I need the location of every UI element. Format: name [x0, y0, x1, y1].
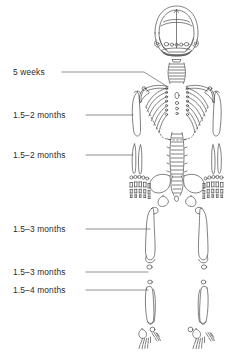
leader-lines — [62, 72, 168, 290]
humerus-group — [132, 91, 221, 136]
right-hand-group — [203, 175, 223, 198]
label-tibia-lower: 1.5–4 months — [13, 286, 66, 294]
right-foot-group — [188, 327, 214, 349]
spine-group — [167, 133, 187, 177]
left-foot-group — [139, 327, 161, 349]
cervical-spine-group — [168, 63, 185, 84]
label-tibia-upper: 1.5–3 months — [13, 268, 66, 276]
right-patella — [201, 265, 206, 269]
skull-group — [155, 6, 199, 62]
thorax-group — [146, 87, 208, 140]
leader-5-weeks — [62, 72, 168, 87]
label-femur: 1.5–3 months — [13, 225, 66, 233]
femur-group — [146, 207, 209, 263]
left-proximal-tibia-epiphysis — [148, 280, 153, 284]
left-hand-group — [130, 175, 150, 198]
shoulder-girdle-group — [139, 85, 214, 103]
label-shoulder-girdle: 1.5–2 months — [13, 111, 66, 119]
patella-group — [147, 265, 207, 284]
ossification-diagram: 5 weeks 1.5–2 months 1.5–2 months 1.5–3 … — [0, 0, 233, 352]
right-proximal-tibia-epiphysis — [201, 280, 206, 284]
lower-leg-group — [145, 286, 208, 324]
forearm-group — [132, 144, 221, 174]
pelvis-group — [150, 174, 204, 206]
label-cervical-spine: 5 weeks — [13, 68, 45, 76]
label-forearm: 1.5–2 months — [13, 151, 66, 159]
left-patella — [147, 265, 152, 269]
skeleton-illustration — [0, 0, 233, 352]
